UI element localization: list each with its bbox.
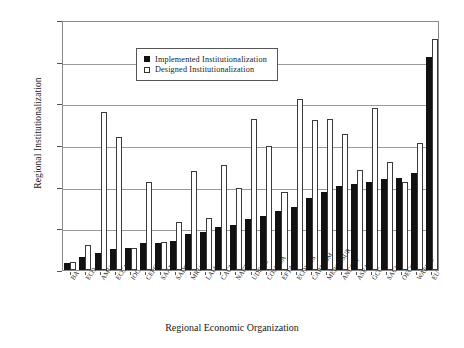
y-tick-mark: [57, 229, 62, 230]
legend-item-implemented: Implemented Institutionalization: [144, 55, 267, 64]
bar-designed: [221, 165, 227, 270]
bar-group: [93, 22, 108, 270]
bar-group: [319, 22, 334, 270]
y-tick-mark: [57, 104, 62, 105]
legend-swatch-open-square-icon: [144, 67, 150, 73]
legend-label-implemented: Implemented Institutionalization: [155, 55, 267, 64]
bar-designed: [251, 119, 257, 270]
bar-group: [425, 22, 440, 270]
chart-legend: Implemented Institutionalization Designe…: [136, 48, 278, 81]
bar-designed: [236, 188, 242, 271]
bar-designed: [387, 162, 393, 270]
bar-designed: [146, 182, 152, 270]
bar-group: [365, 22, 380, 270]
bar-designed: [297, 99, 303, 270]
bar-group: [334, 22, 349, 270]
y-tick-mark: [57, 188, 62, 189]
bar-designed: [402, 182, 408, 270]
bar-designed: [116, 137, 122, 270]
bar-group: [289, 22, 304, 270]
bar-group: [410, 22, 425, 270]
bar-group: [380, 22, 395, 270]
bar-designed: [101, 112, 107, 270]
bar-designed: [372, 108, 378, 271]
bar-group: [395, 22, 410, 270]
bar-group: [304, 22, 319, 270]
chart-figure: Regional Institutionalization Implemente…: [0, 0, 464, 348]
x-axis-title: Regional Economic Organization: [0, 322, 464, 333]
bar-designed: [312, 120, 318, 270]
bar-designed: [206, 218, 212, 270]
bar-designed: [191, 171, 197, 270]
bar-designed: [432, 39, 438, 270]
bar-group: [78, 22, 93, 270]
y-tick-mark: [57, 63, 62, 64]
plot-area: Implemented Institutionalization Designe…: [62, 21, 439, 271]
bar-group: [108, 22, 123, 270]
x-axis-ticks: BAECOAMUECCASIOCCEPGLSAARCSADCMRULAIACAC…: [62, 272, 439, 318]
bar-designed: [327, 119, 333, 270]
bar-designed: [417, 143, 423, 271]
bar-designed: [266, 146, 272, 270]
bar-designed: [357, 170, 363, 270]
y-tick-mark: [57, 146, 62, 147]
y-tick-mark: [57, 21, 62, 22]
legend-item-designed: Designed Institutionalization: [144, 65, 267, 74]
legend-swatch-filled-square-icon: [144, 56, 150, 62]
bar-group: [63, 22, 78, 270]
legend-label-designed: Designed Institutionalization: [155, 65, 254, 74]
y-axis-title: Regional Institutionalization: [33, 33, 43, 233]
bar-group: [350, 22, 365, 270]
